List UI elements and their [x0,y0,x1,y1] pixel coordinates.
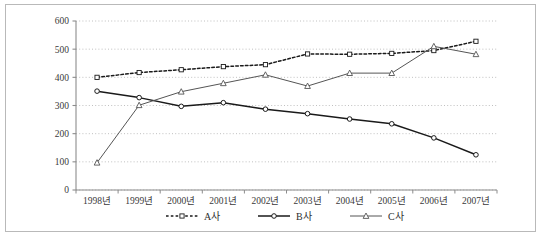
x-tick-label-5: 2003년 [294,196,322,206]
data-point-C사-2002년 [263,72,269,77]
data-point-A사-1999년 [137,70,141,74]
data-point-A사-2004년 [348,52,352,56]
data-point-A사-1998년 [95,75,99,79]
chart-figure: 01002003004005006001998년1999년2000년2001년2… [0,0,543,238]
x-tick-label-3: 2001년 [209,196,237,206]
y-tick-label-100: 100 [55,157,70,167]
data-point-B사-2007년 [474,152,479,157]
data-point-A사-2005년 [390,51,394,55]
y-tick-label-600: 600 [55,16,70,26]
x-tick-label-0: 1998년 [83,196,111,206]
series-line-A사 [97,41,476,77]
y-tick-label-500: 500 [55,45,70,55]
data-point-B사-2001년 [221,100,226,105]
data-point-A사-2002년 [263,63,267,67]
data-point-A사-2007년 [474,39,478,43]
data-point-B사-2006년 [432,136,437,141]
data-point-B사-2003년 [305,111,310,116]
legend-label-C사: C사 [388,211,404,222]
y-tick-label-300: 300 [55,101,70,111]
legend-item-A사[interactable]: A사 [166,211,220,222]
y-tick-label-0: 0 [64,185,69,195]
series-B사 [95,89,479,157]
x-tick-label-4: 2002년 [251,196,279,206]
y-tick-labels: 0100200300400500600 [55,16,70,195]
legend-label-B사: B사 [296,211,312,222]
data-point-B사-2000년 [179,104,184,109]
series-A사 [95,39,478,79]
line-chart: 01002003004005006001998년1999년2000년2001년2… [0,0,543,238]
chart-legend: A사B사C사 [166,211,404,222]
data-point-A사-2001년 [221,65,225,69]
legend-label-A사: A사 [204,211,220,222]
data-point-A사-2000년 [179,68,183,72]
data-point-A사-2003년 [305,52,309,56]
data-point-B사-2002년 [263,107,268,112]
x-tick-labels: 1998년1999년2000년2001년2002년2003년2004년2005년… [83,196,490,206]
legend-marker-A사 [180,214,184,218]
legend-item-C사[interactable]: C사 [350,211,404,222]
legend-item-B사[interactable]: B사 [258,211,312,222]
x-tick-label-7: 2005년 [378,196,406,206]
data-point-B사-2004년 [347,117,352,122]
series-line-C사 [97,46,476,162]
data-point-B사-2005년 [389,122,394,127]
x-tick-label-8: 2006년 [420,196,448,206]
data-point-B사-1999년 [137,95,142,100]
legend-marker-B사 [272,214,277,219]
x-tick-label-6: 2004년 [336,196,364,206]
y-tick-label-400: 400 [55,73,70,83]
data-point-C사-2006년 [431,43,437,48]
x-tick-label-2: 2000년 [167,196,195,206]
y-tick-label-200: 200 [55,129,70,139]
x-tick-label-9: 2007년 [462,196,490,206]
series-C사 [94,43,479,165]
x-tick-label-1: 1999년 [125,196,153,206]
data-point-B사-1998년 [95,89,100,94]
